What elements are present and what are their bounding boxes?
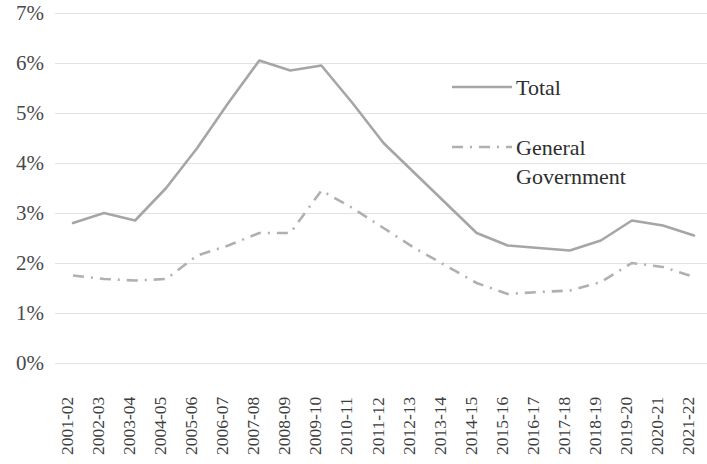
- x-axis-tick-label: 2009-10: [305, 396, 325, 455]
- x-axis-tick-label: 2016-17: [523, 396, 543, 455]
- legend-label-general-government-line2: Government: [516, 164, 626, 189]
- x-axis-tick-label: 2014-15: [461, 396, 481, 455]
- y-axis-tick-labels: 0%1%2%3%4%5%6%7%: [16, 1, 44, 375]
- y-axis-tick-label: 3%: [16, 201, 44, 225]
- x-axis-tick-label: 2003-04: [119, 396, 139, 455]
- legend-label-general-government-line1: General: [516, 135, 586, 160]
- series-line-total: [73, 61, 694, 251]
- y-axis-tick-label: 2%: [16, 251, 44, 275]
- legend: Total General Government: [452, 75, 626, 189]
- x-axis-tick-label: 2004-05: [150, 396, 170, 455]
- y-axis-tick-label: 6%: [16, 51, 44, 75]
- y-axis-tick-label: 4%: [16, 151, 44, 175]
- legend-label-total: Total: [516, 75, 561, 100]
- y-axis-tick-label: 5%: [16, 101, 44, 125]
- y-axis-tick-label: 7%: [16, 1, 44, 25]
- line-chart: 0%1%2%3%4%5%6%7% 2001-022002-032003-0420…: [0, 0, 707, 464]
- x-axis-tick-label: 2001-02: [57, 397, 77, 455]
- x-axis-tick-label: 2013-14: [430, 396, 450, 455]
- x-axis-tick-label: 2007-08: [243, 396, 263, 455]
- x-axis-tick-label: 2021-22: [678, 397, 698, 455]
- y-axis-tick-label: 1%: [16, 301, 44, 325]
- x-axis-tick-label: 2010-11: [336, 397, 356, 455]
- x-axis-tick-label: 2005-06: [181, 396, 201, 455]
- y-axis-tick-label: 0%: [16, 351, 44, 375]
- x-axis-tick-label: 2012-13: [399, 396, 419, 455]
- x-axis-tick-label: 2002-03: [88, 396, 108, 455]
- x-axis-tick-label: 2011-12: [368, 397, 388, 455]
- x-axis-tick-label: 2018-19: [585, 396, 605, 455]
- x-axis-tick-label: 2006-07: [212, 396, 232, 455]
- x-axis-tick-labels: 2001-022002-032003-042004-052005-062006-…: [57, 396, 698, 455]
- chart-container: 0%1%2%3%4%5%6%7% 2001-022002-032003-0420…: [0, 0, 707, 464]
- x-axis-tick-label: 2017-18: [554, 396, 574, 455]
- x-axis-tick-label: 2015-16: [492, 396, 512, 455]
- x-axis-tick-label: 2019-20: [616, 396, 636, 455]
- series-line-general-government: [73, 191, 694, 295]
- x-axis-tick-label: 2020-21: [647, 397, 667, 455]
- x-axis-tick-label: 2008-09: [274, 396, 294, 455]
